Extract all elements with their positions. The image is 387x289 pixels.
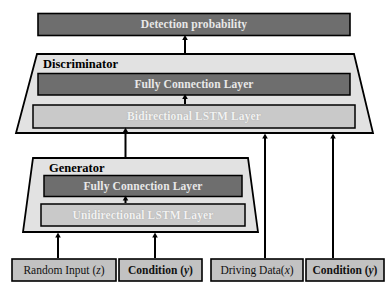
generator-unidirectional-lstm-layer	[41, 204, 245, 226]
discriminator-bidirectional-lstm-layer	[33, 105, 355, 128]
input-box-condition-discriminator	[306, 259, 384, 281]
diagram-canvas: Detection probability Discriminator Full…	[0, 0, 387, 289]
architecture-diagram-svg	[0, 0, 387, 289]
generator-fully-connection-layer	[44, 176, 242, 197]
generator-title: Generator	[49, 161, 105, 176]
discriminator-title: Discriminator	[43, 57, 118, 72]
input-box-condition-generator	[119, 259, 202, 281]
input-box-driving-data	[211, 259, 303, 281]
discriminator-fully-connection-layer	[38, 74, 350, 96]
input-box-random-input	[12, 259, 116, 281]
detection-probability-block	[38, 14, 350, 36]
